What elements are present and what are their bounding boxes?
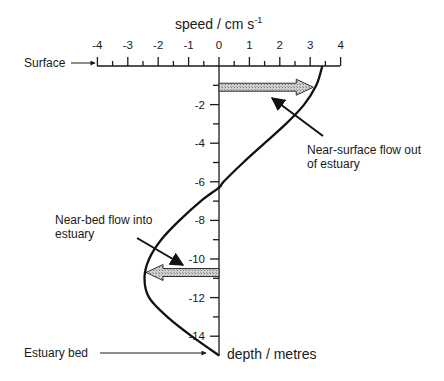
bed-inflow-arrow-icon [146,265,219,281]
x-axis-title: speed / cm s-1 [175,15,262,32]
estuary-bed-label: Estuary bed [24,346,88,360]
speed-tick-label: 1 [246,39,252,51]
depth-tick-label: -12 [188,292,205,304]
velocity-profile-curve [145,66,323,356]
speed-axis-ticks [97,57,340,66]
depth-axis-tick-labels: -2-4-6-8-10-12-14 [188,99,205,343]
surface-flow-annotation: Near-surface flow out of estuary [307,143,424,171]
bed-flow-annotation: Near-bed flow into estuary [55,213,156,241]
speed-tick-label: -2 [153,39,163,51]
x-axis-tick-labels: -4-3-2-101234 [92,39,344,51]
x-axis-title-superscript: -1 [254,15,262,25]
surface-label: Surface [24,56,66,70]
speed-tick-label: 2 [277,39,283,51]
speed-tick-label: 3 [307,39,313,51]
surface-outflow-arrow-icon [219,79,313,95]
depth-tick-label: -6 [195,176,205,188]
speed-tick-label: -1 [183,39,193,51]
depth-tick-label: -4 [195,137,206,149]
speed-tick-label: -3 [123,39,133,51]
estuary-velocity-profile-diagram: speed / cm s-1 -4-3-2-101234 -2-4-6-8-10… [0,0,444,381]
depth-axis-ticks [210,85,219,336]
depth-tick-label: -2 [195,99,205,111]
speed-tick-label: 0 [216,39,222,51]
speed-tick-label: -4 [92,39,103,51]
depth-axis-label: depth / metres [227,346,317,362]
depth-tick-label: -10 [188,253,205,265]
speed-tick-label: 4 [337,39,344,51]
depth-tick-label: -8 [195,214,205,226]
